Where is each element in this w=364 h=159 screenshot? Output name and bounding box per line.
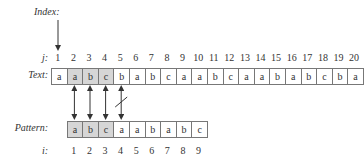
comparison-arrows	[0, 0, 355, 159]
